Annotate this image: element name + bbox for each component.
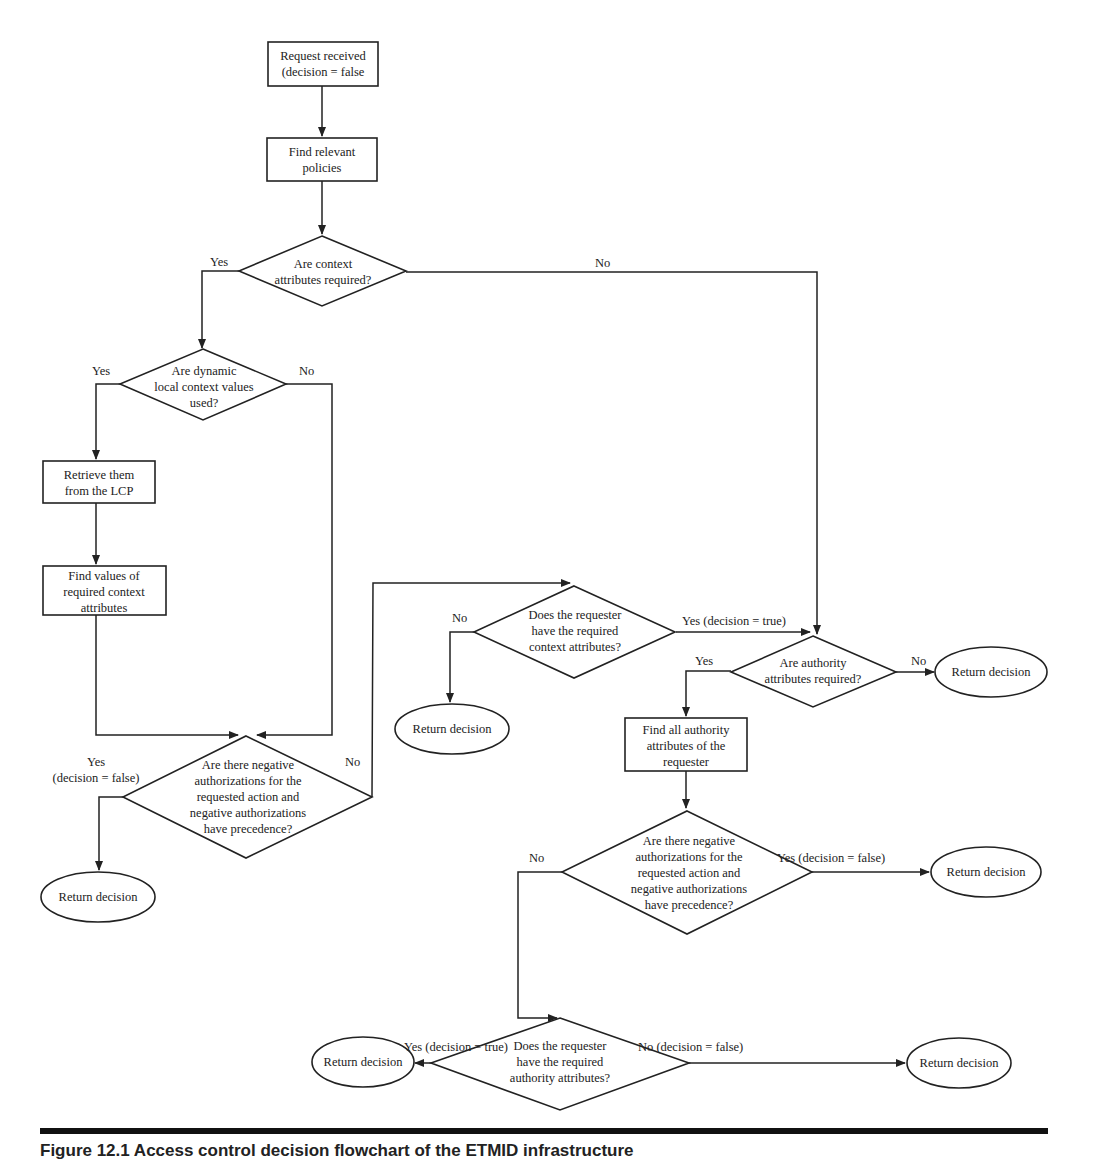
node-text: Retrieve them: [64, 468, 135, 482]
edge-values-to-neg1: [96, 615, 238, 735]
node-text: context attributes?: [529, 640, 621, 654]
node-text: Return decision: [952, 665, 1032, 679]
terminal-return-decision-4: Return decision: [931, 847, 1041, 897]
edge-neg2-no: [518, 872, 562, 1018]
edge-dynamic-yes: [96, 384, 120, 459]
node-text: (decision = false: [282, 65, 365, 79]
node-text: Are there negative: [202, 758, 295, 772]
node-text: Are context: [294, 257, 353, 271]
node-text: negative authorizations: [190, 806, 306, 820]
label-has-context-no: No: [452, 611, 467, 625]
terminal-return-decision-2: Return decision: [395, 704, 509, 754]
node-text: attributes: [81, 601, 128, 615]
decision-has-authority-attributes: Does the requester have the required aut…: [431, 1018, 689, 1110]
node-text: authorizations for the: [636, 850, 743, 864]
node-text: Return decision: [920, 1056, 1000, 1070]
node-text: required context: [63, 585, 145, 599]
node-find-authority-attributes: Find all authority attributes of the req…: [625, 718, 747, 771]
label-dynamic-yes: Yes: [92, 364, 110, 378]
node-text: negative authorizations: [631, 882, 747, 896]
node-text: authority attributes?: [510, 1071, 611, 1085]
node-text: Return decision: [947, 865, 1027, 879]
edge-authority-yes: [686, 671, 731, 716]
terminal-return-decision-3: Return decision: [935, 647, 1047, 697]
node-text: Find relevant: [289, 145, 356, 159]
node-text: requested action and: [197, 790, 300, 804]
node-text: local context values: [154, 380, 253, 394]
decision-negative-authorizations-1: Are there negative authorizations for th…: [123, 736, 372, 858]
node-text: policies: [303, 161, 342, 175]
decision-has-context-attributes: Does the requester have the required con…: [474, 586, 675, 678]
node-request-received: Request received (decision = false: [268, 42, 378, 86]
label-has-authority-no: No (decision = false): [638, 1040, 743, 1054]
node-text: authorizations for the: [195, 774, 302, 788]
edge-dynamic-no: [257, 384, 332, 735]
node-text: Are there negative: [643, 834, 736, 848]
figure-separator-rule: [40, 1128, 1048, 1134]
edge-context-no: [406, 272, 817, 634]
decision-authority-attributes-required: Are authority attributes required?: [731, 636, 896, 707]
edge-has-context-no: [450, 632, 474, 702]
label-authority-no: No: [911, 654, 926, 668]
label-dynamic-no: No: [299, 364, 314, 378]
edge-neg1-yes: [99, 797, 123, 870]
node-text: from the LCP: [65, 484, 134, 498]
decision-negative-authorizations-2: Are there negative authorizations for th…: [562, 811, 812, 934]
node-text: attributes of the: [647, 739, 726, 753]
node-text: requested action and: [638, 866, 741, 880]
node-text: Return decision: [59, 890, 139, 904]
decision-context-attributes-required: Are context attributes required?: [239, 236, 406, 306]
node-text: Return decision: [324, 1055, 404, 1069]
label-neg2-no: No: [529, 851, 544, 865]
terminal-return-decision-1: Return decision: [41, 872, 155, 922]
node-find-context-values: Find values of required context attribut…: [43, 566, 166, 615]
label-authority-yes: Yes: [695, 654, 713, 668]
node-text: Are authority: [780, 656, 848, 670]
node-text: Find values of: [68, 569, 140, 583]
edge-context-yes: [202, 271, 239, 348]
label-neg1-yes: Yes: [87, 755, 105, 769]
node-text: Find all authority: [643, 723, 731, 737]
terminal-return-decision-5: Return decision: [312, 1037, 414, 1087]
figure-caption: Figure 12.1 Access control decision flow…: [40, 1141, 634, 1161]
label-neg1-yes-decision: (decision = false): [53, 771, 140, 785]
node-text: Does the requester: [528, 608, 622, 622]
label-context-no: No: [595, 256, 610, 270]
node-text: have precedence?: [645, 898, 734, 912]
decision-dynamic-local-context: Are dynamic local context values used?: [120, 349, 286, 420]
node-text: have the required: [517, 1055, 605, 1069]
node-text: attributes required?: [275, 273, 372, 287]
label-has-context-yes: Yes (decision = true): [682, 614, 786, 628]
terminal-return-decision-6: Return decision: [907, 1038, 1011, 1088]
node-text: attributes required?: [765, 672, 862, 686]
node-text: Does the requester: [513, 1039, 607, 1053]
node-retrieve-from-lcp: Retrieve them from the LCP: [43, 461, 155, 503]
edges: [96, 86, 934, 1063]
label-has-authority-yes: Yes (decision = true): [404, 1040, 508, 1054]
node-text: have precedence?: [204, 822, 293, 836]
node-text: Request received: [280, 49, 366, 63]
node-text: used?: [190, 396, 219, 410]
label-neg2-yes: Yes (decision = false): [777, 851, 885, 865]
node-text: have the required: [532, 624, 620, 638]
node-text: Return decision: [413, 722, 493, 736]
node-text: Are dynamic: [172, 364, 237, 378]
label-neg1-no: No: [345, 755, 360, 769]
node-text: requester: [663, 755, 710, 769]
node-find-relevant-policies: Find relevant policies: [267, 138, 377, 181]
label-context-yes: Yes: [210, 255, 228, 269]
